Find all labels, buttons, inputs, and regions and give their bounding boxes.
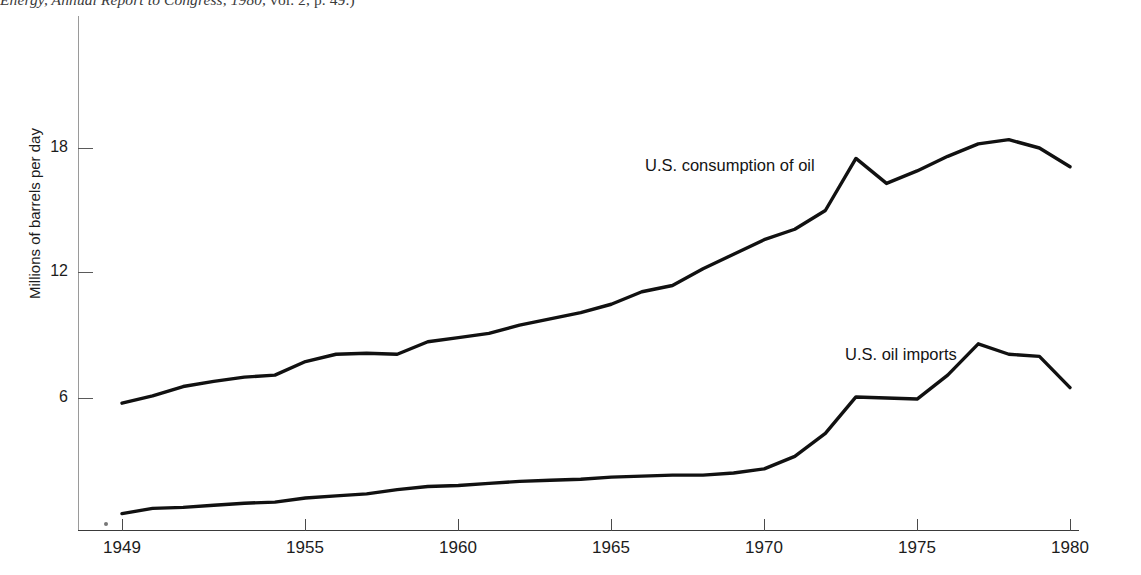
series-label-imports: U.S. oil imports [845, 345, 957, 364]
chart-curves [0, 0, 1141, 575]
origin-marker [104, 522, 108, 526]
chart-figure: Energy, Annual Report to Congress, 1980,… [0, 0, 1141, 575]
series-line-imports [122, 344, 1070, 514]
series-label-consumption: U.S. consumption of oil [645, 156, 815, 175]
